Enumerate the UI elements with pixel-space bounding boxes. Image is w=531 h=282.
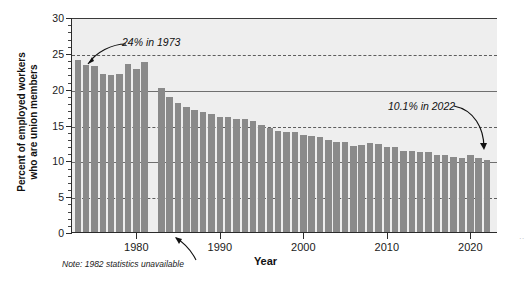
bar	[342, 142, 349, 232]
x-tick-label-2010: 2010	[375, 241, 399, 253]
x-tick-label-2000: 2000	[291, 241, 315, 253]
bar	[267, 128, 274, 232]
bar	[158, 88, 165, 232]
bar	[308, 136, 315, 232]
bar	[175, 103, 182, 232]
bar	[292, 132, 299, 232]
x-tick-2000	[303, 233, 304, 239]
bar	[358, 145, 365, 232]
bar	[217, 117, 224, 232]
bar-series	[72, 19, 497, 232]
annotation-left-arrow	[72, 30, 132, 70]
y-tick-label-10: 10	[52, 156, 64, 166]
y-tick-label-20: 20	[52, 85, 64, 95]
y-tick-label-25: 25	[52, 49, 64, 59]
bar	[283, 132, 290, 232]
bar	[350, 146, 357, 232]
bar	[200, 112, 207, 232]
bar	[442, 155, 449, 232]
bar	[116, 74, 123, 232]
y-tick-label-15: 15	[52, 121, 64, 131]
y-tick-label-0: 0	[58, 228, 64, 238]
y-axis-label: Percent of employed workers who are unio…	[16, 32, 40, 212]
bar	[225, 117, 232, 232]
bar	[275, 131, 282, 232]
y-tick-0	[66, 233, 72, 234]
y-tick-label-30: 30	[52, 13, 64, 23]
edge-artifact: ··	[519, 234, 524, 243]
bar	[467, 155, 474, 232]
bar	[325, 140, 332, 232]
plot-area	[72, 18, 497, 233]
bar	[83, 65, 90, 232]
bar	[233, 119, 240, 232]
annotation-right: 10.1% in 2022	[388, 100, 455, 112]
bar	[425, 152, 432, 232]
annotation-right-arrow	[452, 104, 496, 160]
bar	[91, 66, 98, 232]
y-tick-label-5: 5	[58, 192, 64, 202]
bar	[75, 60, 82, 232]
bar	[166, 97, 173, 232]
y-axis: Percent of employed workers who are unio…	[0, 0, 72, 282]
x-tick-1990	[220, 233, 221, 239]
bar	[417, 152, 424, 232]
bar	[141, 62, 148, 232]
bar	[100, 74, 107, 232]
bar	[434, 155, 441, 232]
bar	[409, 151, 416, 232]
bar	[208, 114, 215, 232]
x-axis-label: Year	[0, 255, 531, 267]
y-axis-label-line2: who are union members	[28, 64, 39, 179]
bar	[258, 125, 265, 232]
x-tick-2010	[387, 233, 388, 239]
x-tick-2020	[470, 233, 471, 239]
bar	[183, 107, 190, 232]
x-tick-1980	[136, 233, 137, 239]
bar	[108, 75, 115, 232]
bar	[125, 64, 132, 232]
bar	[250, 121, 257, 232]
bar	[484, 160, 491, 232]
bar	[450, 157, 457, 232]
bar	[392, 147, 399, 232]
bar	[384, 147, 391, 232]
bar	[242, 119, 249, 232]
x-tick-label-1990: 1990	[208, 241, 232, 253]
bar	[317, 137, 324, 232]
bar	[375, 144, 382, 232]
bar	[400, 151, 407, 232]
bar	[459, 158, 466, 232]
y-axis-label-line1: Percent of employed workers	[16, 52, 27, 192]
bar	[300, 135, 307, 232]
x-tick-label-1980: 1980	[124, 241, 148, 253]
chart-figure: Percent of employed workers who are unio…	[0, 0, 531, 282]
x-tick-label-2020: 2020	[458, 241, 482, 253]
bar	[475, 158, 482, 232]
bar	[333, 142, 340, 232]
bar	[191, 110, 198, 232]
bar	[367, 143, 374, 232]
bar	[133, 69, 140, 232]
